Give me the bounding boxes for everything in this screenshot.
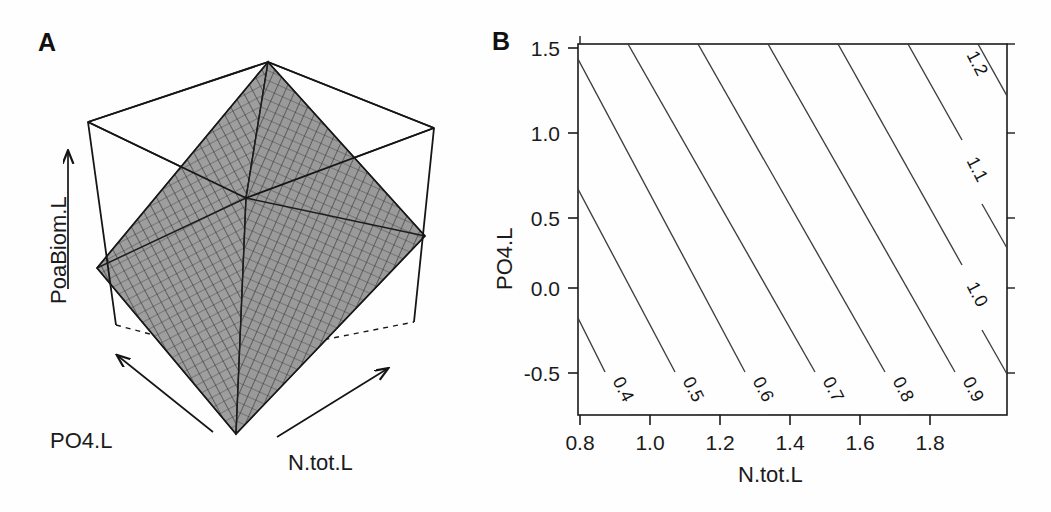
y-tick-label: 0.0 [531, 277, 560, 300]
contour-label: 0.4 [609, 374, 638, 405]
panel-b-letter: B [492, 27, 510, 56]
contour-plot: 0.8 1.0 1.2 1.4 1.6 1.8 1.5 1.0 0.5 0.0 … [470, 0, 1051, 512]
y-tick-labels: 1.5 1.0 0.5 0.0 -0.5 [524, 37, 560, 385]
x-tick-label: 0.8 [565, 431, 594, 454]
contour-line [628, 44, 815, 372]
contour-label: 1.0 [963, 279, 992, 310]
contour-line [698, 44, 885, 372]
contour-line [578, 59, 745, 372]
contour-label: 0.5 [679, 374, 708, 405]
y-axis-ticks [568, 48, 578, 373]
contour-line [578, 318, 605, 372]
x-tick-label: 1.6 [845, 431, 874, 454]
x-tick-labels: 0.8 1.0 1.2 1.4 1.6 1.8 [565, 431, 944, 454]
panel-b-x-axis-label: N.tot.L [738, 462, 803, 488]
contour-label: 0.8 [889, 374, 918, 405]
contour-label: 0.6 [749, 374, 778, 405]
x-tick-label: 1.4 [775, 431, 805, 454]
y-axis-arrow [277, 369, 387, 437]
panel-a-x-axis-label: PO4.L [50, 428, 112, 454]
y-tick-label: 0.5 [531, 207, 560, 230]
contour-line [982, 204, 1007, 248]
secondary-ticks [580, 36, 1015, 373]
figure-canvas: A [0, 0, 1051, 512]
contour-line [768, 44, 955, 372]
contour-line [982, 330, 1007, 374]
contour-lines [578, 15, 1007, 415]
contour-line [838, 44, 962, 265]
panel-a-y-axis-label: N.tot.L [288, 450, 353, 476]
y-tick-label: -0.5 [524, 362, 560, 385]
x-axis-ticks [580, 415, 930, 425]
y-tick-label: 1.0 [531, 122, 560, 145]
contour-line [578, 189, 675, 372]
x-tick-label: 1.2 [705, 431, 734, 454]
panel-b: B [470, 0, 1051, 512]
panel-a: A [0, 0, 480, 512]
panel-b-y-axis-label: PO4.L [492, 228, 518, 290]
panel-a-letter: A [38, 28, 56, 57]
panel-a-z-axis-label: PoaBiom.L [46, 196, 72, 304]
x-tick-label: 1.0 [635, 431, 664, 454]
contour-line [908, 44, 962, 140]
contour-label: 1.1 [963, 154, 992, 185]
x-tick-label: 1.8 [915, 431, 944, 454]
contour-label: 1.2 [963, 48, 992, 79]
contour-label: 0.9 [959, 374, 988, 405]
y-tick-label: 1.5 [531, 37, 560, 60]
contour-label: 0.7 [819, 374, 848, 405]
